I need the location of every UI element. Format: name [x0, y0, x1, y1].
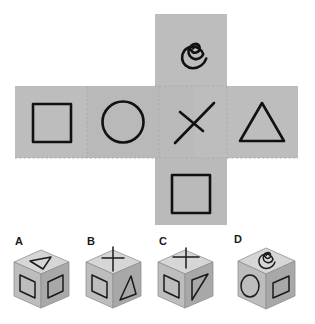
answer-options: A B: [0, 0, 315, 324]
option-d-label: D: [234, 233, 242, 245]
option-c-label: C: [159, 235, 167, 247]
option-c-cube[interactable]: [158, 248, 213, 308]
option-c[interactable]: C: [158, 235, 213, 308]
option-a-label: A: [15, 235, 23, 247]
option-d-cube[interactable]: [238, 248, 295, 309]
option-d[interactable]: D: [234, 233, 295, 309]
option-b[interactable]: B: [86, 235, 141, 308]
option-b-label: B: [87, 235, 95, 247]
option-a[interactable]: A: [14, 235, 69, 308]
puzzle-stage: A B: [0, 0, 315, 324]
option-b-cube[interactable]: [86, 247, 141, 308]
option-a-cube[interactable]: [14, 250, 69, 308]
